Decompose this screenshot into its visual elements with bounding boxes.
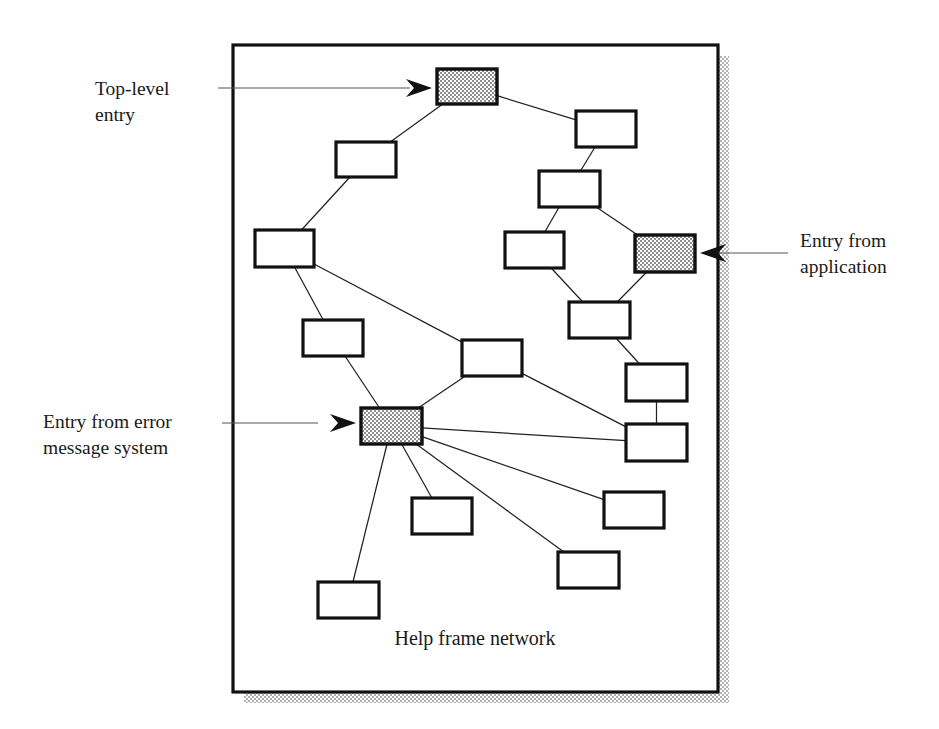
entry-from-application-node[interactable]: [635, 235, 695, 272]
node[interactable]: [569, 302, 630, 338]
node[interactable]: [505, 232, 564, 268]
node[interactable]: [604, 492, 664, 528]
node[interactable]: [318, 582, 379, 618]
node[interactable]: [539, 171, 600, 207]
annotation-label-top-level-entry: Top-levelentry: [95, 78, 170, 125]
figure-caption: Help frame network: [394, 627, 555, 650]
node[interactable]: [412, 498, 472, 534]
node[interactable]: [626, 364, 687, 401]
help-frame-network-figure: Top-levelentryEntry fromapplicationEntry…: [0, 0, 939, 729]
frame-shadow-bottom: [244, 692, 729, 703]
node[interactable]: [558, 552, 619, 588]
center-node[interactable]: [462, 340, 522, 376]
node[interactable]: [626, 424, 687, 461]
entry-from-error-message-node[interactable]: [361, 408, 422, 444]
frame-shadow-right: [718, 56, 729, 703]
node[interactable]: [576, 111, 636, 147]
annotation-label-entry-from-application: Entry fromapplication: [800, 230, 887, 277]
node[interactable]: [303, 320, 363, 356]
node[interactable]: [255, 230, 314, 267]
node[interactable]: [336, 142, 396, 177]
annotation-label-entry-from-error-message-system: Entry from errormessage system: [43, 411, 172, 458]
top-level-entry-node[interactable]: [437, 69, 497, 104]
